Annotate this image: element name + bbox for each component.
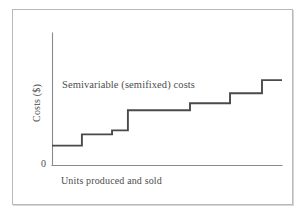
origin-tick-label: 0 [41, 159, 46, 169]
chart-annotation-title: Semivariable (semifixed) costs [62, 80, 195, 91]
y-axis-label: Costs ($) [32, 65, 42, 141]
figure-container: Semivariable (semifixed) costs Units pro… [0, 0, 305, 214]
x-axis-label: Units produced and sold [61, 176, 162, 186]
